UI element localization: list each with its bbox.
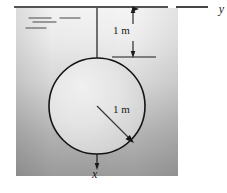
radius-dimension-label: 1 m — [113, 104, 130, 115]
engineering-figure: y x 1 m 1 m — [0, 0, 227, 193]
depth-dimension-label: 1 m — [113, 25, 130, 36]
axis-label-y: y — [219, 3, 224, 15]
axis-label-x: x — [92, 168, 97, 180]
